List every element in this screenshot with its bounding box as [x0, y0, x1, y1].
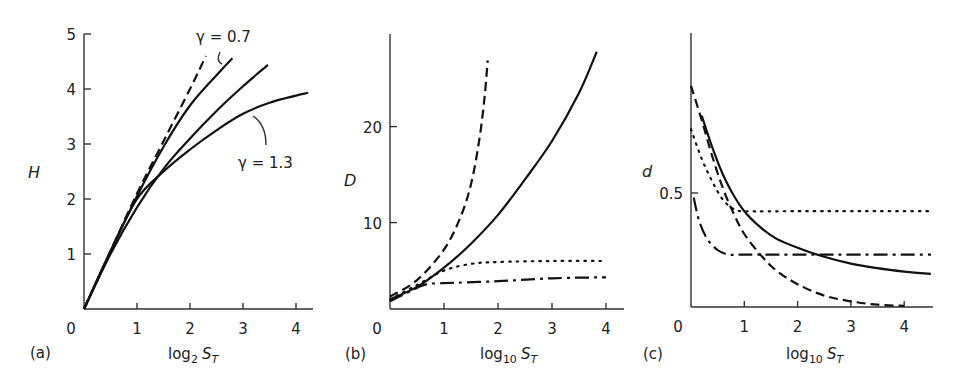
x-tick-label: 1	[740, 318, 750, 336]
y-tick-label: 4	[66, 81, 76, 99]
series-solid-line	[84, 93, 308, 309]
y-tick-label: 2	[66, 191, 76, 209]
annotation-gamma-1-3: γ = 1.3	[238, 154, 293, 172]
panel-label-b: (b)	[345, 345, 366, 363]
series-dashed-line	[691, 86, 904, 306]
x-tick-label: 1	[132, 320, 142, 338]
x-axis-label-c: log10ST	[786, 345, 844, 366]
x-tick-label: 2	[185, 320, 195, 338]
panel-c: 012340.5 d (c) log10ST	[642, 33, 933, 366]
x-axis-label-a: log2ST	[168, 345, 219, 366]
x-axis-label-b: log10ST	[480, 345, 538, 366]
series-solid-line	[702, 116, 931, 274]
series-solid-line	[84, 65, 268, 309]
leader-line-gamma-0-7	[218, 52, 222, 64]
y-tick-label: 0.5	[659, 185, 683, 203]
series-solid-line	[84, 58, 232, 309]
panel-b: 012341020 D (b) log10ST	[344, 34, 624, 366]
y-tick-label: 1	[66, 246, 76, 264]
y-axis-label-c: d	[642, 162, 653, 181]
annotation-gamma-0-7: γ = 0.7	[196, 28, 251, 46]
x-tick-label: 2	[493, 320, 503, 338]
x-tick-label: 2	[793, 318, 803, 336]
x-tick-label: 4	[899, 318, 909, 336]
x-tick-label: 3	[547, 320, 557, 338]
leader-line-gamma-1-3	[253, 116, 266, 145]
series-dashed-line	[390, 60, 488, 296]
x-tick-label: 0	[673, 318, 683, 336]
figure: 0123412345 H (a) log2ST γ = 0.7 γ = 1.3 …	[0, 0, 956, 384]
plot-area-b: 012341020	[363, 34, 624, 338]
x-tick-label: 0	[66, 320, 76, 338]
panel-label-a: (a)	[30, 344, 51, 362]
panel-label-c: (c)	[643, 345, 663, 363]
y-tick-label: 20	[363, 119, 382, 137]
x-tick-label: 1	[439, 320, 449, 338]
y-tick-label: 3	[66, 136, 76, 154]
y-axis-label-b: D	[344, 171, 356, 190]
x-tick-label: 0	[372, 320, 382, 338]
plot-area-a: 0123412345	[66, 26, 313, 338]
panel-a: 0123412345 H (a) log2ST γ = 0.7 γ = 1.3	[28, 26, 313, 366]
x-tick-label: 4	[291, 320, 301, 338]
plot-area-c: 012340.5	[659, 33, 933, 336]
y-axis-label-a: H	[28, 163, 40, 182]
x-tick-label: 3	[846, 318, 856, 336]
y-tick-label: 5	[66, 26, 76, 44]
y-tick-label: 10	[363, 215, 382, 233]
x-tick-label: 3	[238, 320, 248, 338]
x-tick-label: 4	[601, 320, 611, 338]
